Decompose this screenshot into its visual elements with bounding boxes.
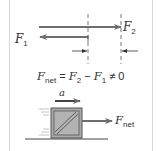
accelerating-box-panel: a Fnet (25, 87, 135, 139)
force-comparison-panel: F1 F2 Fnet = F2 − F1 ≠ 0 (14, 14, 138, 85)
force-f2-label: F2 (122, 20, 136, 36)
net-force-label: Fnet (114, 113, 135, 129)
crate-icon (51, 108, 82, 138)
net-force-diagram: F1 F2 Fnet = F2 − F1 ≠ 0 a (0, 0, 156, 151)
motion-lines-icon (39, 109, 49, 135)
acceleration-label: a (59, 87, 65, 98)
force-f1-label: F1 (14, 32, 28, 48)
net-force-equation: Fnet = F2 − F1 ≠ 0 (36, 69, 124, 85)
